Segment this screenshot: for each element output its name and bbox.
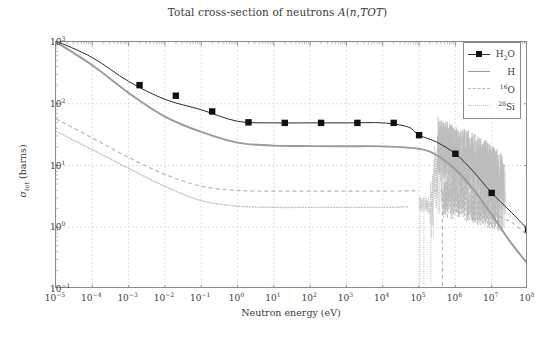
x-tick-label-10: 105 (410, 291, 425, 303)
x-tick-label-6: 101 (265, 291, 280, 303)
x-tick-label-11: 106 (447, 291, 462, 303)
legend-label-1: H (493, 67, 516, 77)
x-tick-label-8: 103 (338, 291, 353, 303)
x-tick-label-5: 100 (229, 291, 244, 303)
legend-swatch-dashed-icon (468, 83, 490, 94)
legend-item-3[interactable]: 28Si (468, 97, 516, 114)
legend-label-3: 28Si (493, 100, 516, 112)
x-tick-label-9: 104 (374, 291, 389, 303)
x-tick-label-2: 10−3 (117, 291, 137, 303)
legend-label-0: H2O (493, 49, 516, 61)
x-tick-label-7: 102 (301, 291, 316, 303)
plot-inner (56, 42, 526, 287)
legend-box: H2OH16O28Si (463, 42, 521, 119)
legend-item-2[interactable]: 16O (468, 80, 516, 97)
tick-layer (56, 42, 527, 288)
legend-item-1[interactable]: H (468, 63, 516, 80)
chart-canvas: Total cross-section of neutrons A(n,TOT)… (0, 0, 555, 338)
x-tick-label-13: 108 (519, 291, 534, 303)
legend-swatch-solid-icon (468, 66, 490, 77)
x-axis-title: Neutron energy (eV) (55, 307, 527, 318)
y-axis-title: σtot (barns) (17, 101, 31, 241)
legend-item-0[interactable]: H2O (468, 46, 516, 63)
chart-title: Total cross-section of neutrons A(n,TOT) (0, 6, 555, 18)
x-tick-label-3: 10−2 (154, 291, 174, 303)
legend-label-2: 16O (493, 83, 516, 95)
x-tick-label-12: 107 (483, 291, 498, 303)
legend-swatch-dotted-icon (468, 100, 490, 111)
plot-area (55, 41, 527, 288)
x-tick-label-4: 10−1 (190, 291, 210, 303)
x-tick-label-1: 10−4 (81, 291, 101, 303)
legend-swatch-solid-with-square-markers-icon (468, 49, 490, 60)
